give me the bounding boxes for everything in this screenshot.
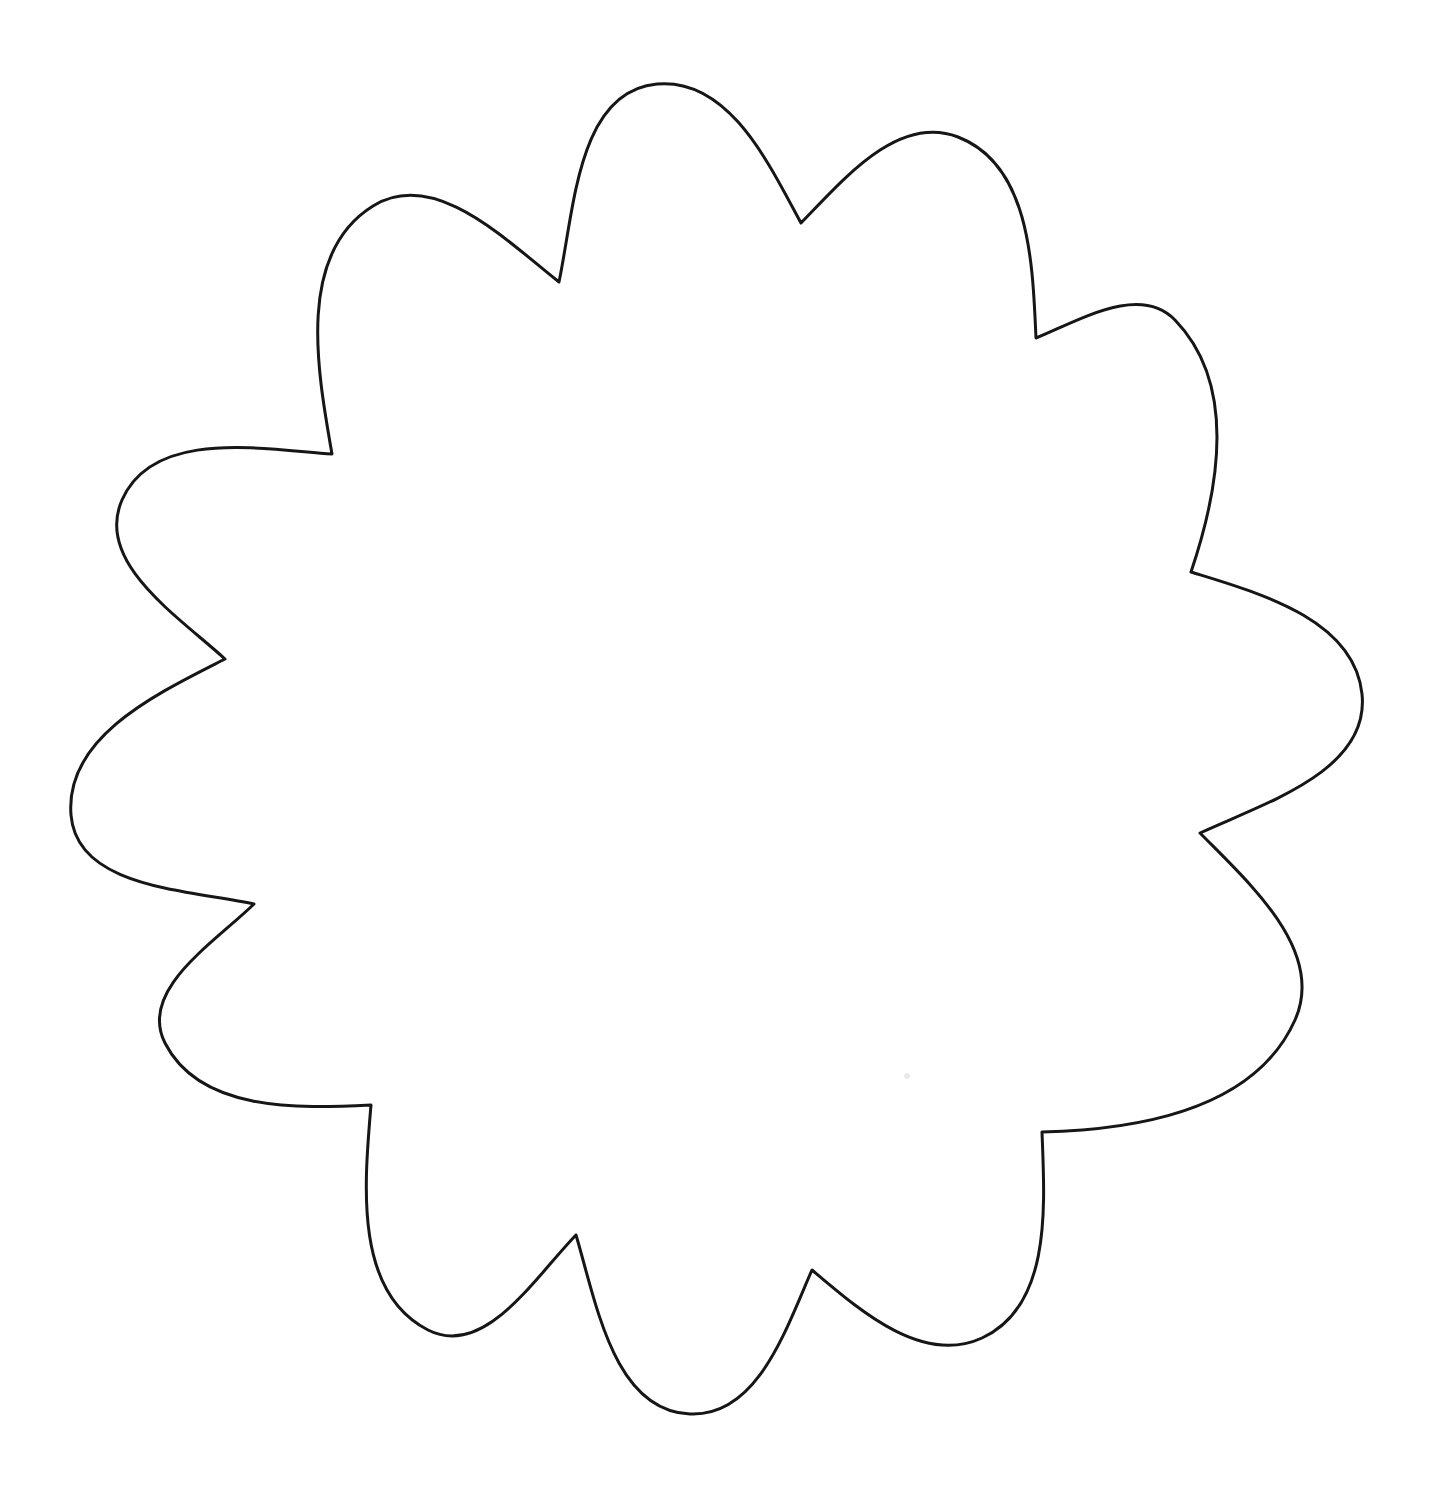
flower-petal-outline <box>71 84 1363 1414</box>
coloring-page <box>0 0 1438 1506</box>
scan-speck <box>904 1073 910 1079</box>
flower-outline-drawing <box>0 0 1438 1506</box>
